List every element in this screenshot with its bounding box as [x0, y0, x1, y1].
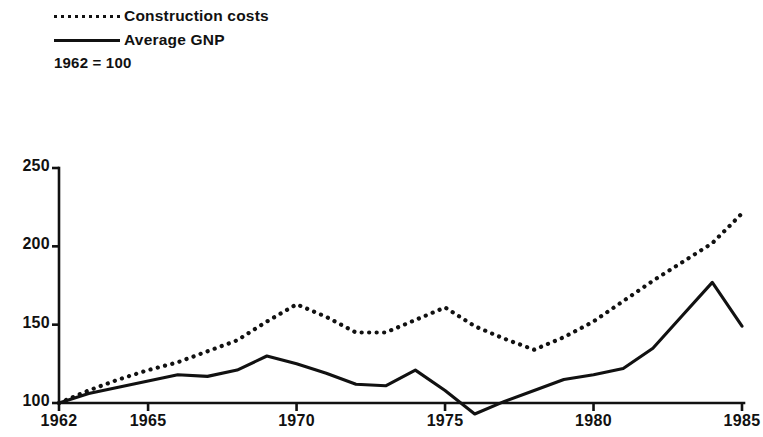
- series-line-average-gnp: [59, 282, 742, 414]
- x-axis-tick-label: 1985: [707, 412, 763, 430]
- chart-axes: [52, 168, 744, 411]
- x-axis-tick-label: 1965: [113, 412, 183, 430]
- y-axis-tick-label: 100: [4, 392, 50, 410]
- x-axis-tick-label: 1962: [24, 412, 94, 430]
- y-axis-tick-label: 200: [4, 235, 50, 253]
- chart-series-group: [59, 213, 742, 414]
- y-axis-tick-label: 150: [4, 314, 50, 332]
- y-axis-tick-label: 250: [4, 157, 50, 175]
- x-axis-tick-label: 1970: [262, 412, 332, 430]
- line-chart-plot: [0, 0, 763, 437]
- series-line-construction-costs: [59, 213, 742, 403]
- x-axis-tick-label: 1975: [410, 412, 480, 430]
- chart-figure: Construction costs Average GNP 1962 = 10…: [0, 0, 763, 437]
- x-axis-tick-label: 1980: [559, 412, 629, 430]
